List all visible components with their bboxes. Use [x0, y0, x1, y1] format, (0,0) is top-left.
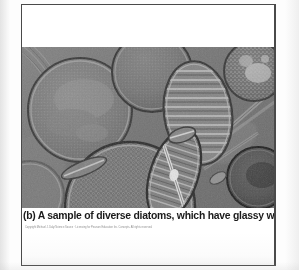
page-sheet: (b) A sample of diverse diatoms, which h… — [21, 4, 276, 266]
figure-caption: (b) A sample of diverse diatoms, which h… — [23, 209, 276, 222]
figure-credit-line: Copyright Michael J. Daly/Science Source… — [25, 224, 195, 231]
scanned-page-canvas: (b) A sample of diverse diatoms, which h… — [0, 0, 299, 270]
page-blank-area-bottom — [22, 233, 275, 266]
page-blank-area-top — [22, 5, 275, 47]
diatom-micrograph — [22, 47, 276, 208]
